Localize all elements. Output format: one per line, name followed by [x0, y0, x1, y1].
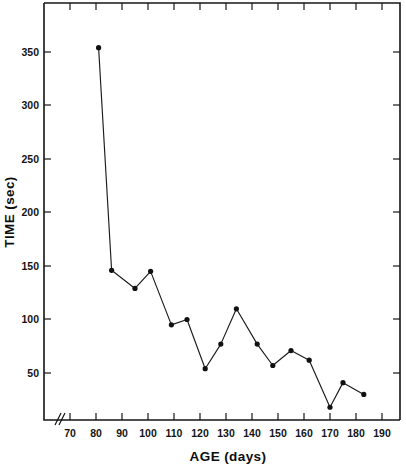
y-axis-title: TIME (sec): [2, 176, 17, 248]
y-tick-label: 300: [21, 99, 39, 111]
x-tick-label: 150: [269, 427, 287, 439]
x-tick-label: 80: [90, 427, 102, 439]
data-point: [340, 380, 345, 385]
data-point: [288, 348, 293, 353]
y-tick-label: 250: [21, 153, 39, 165]
data-point: [270, 363, 275, 368]
data-point: [234, 306, 239, 311]
x-tick-label: 120: [191, 427, 209, 439]
data-point: [255, 342, 260, 347]
data-point: [96, 45, 101, 50]
y-tick-label: 200: [21, 206, 39, 218]
data-point: [203, 366, 208, 371]
chart-background: [0, 0, 406, 469]
data-point: [148, 269, 153, 274]
data-point: [169, 322, 174, 327]
data-point: [184, 317, 189, 322]
x-tick-label: 170: [321, 427, 339, 439]
chart-figure: 350 300 250 200 150 100 50: [0, 0, 406, 469]
x-tick-label: 90: [116, 427, 128, 439]
x-tick-label: 180: [347, 427, 365, 439]
line-chart-svg: 350 300 250 200 150 100 50: [0, 0, 406, 469]
x-tick-label: 140: [243, 427, 261, 439]
y-tick-label: 100: [21, 313, 39, 325]
x-tick-label: 160: [295, 427, 313, 439]
y-tick-label: 50: [27, 367, 39, 379]
data-point: [307, 358, 312, 363]
x-axis-title: AGE (days): [190, 449, 267, 464]
x-tick-label: 190: [373, 427, 391, 439]
x-tick-label: 70: [64, 427, 76, 439]
data-point: [132, 286, 137, 291]
data-point: [361, 392, 366, 397]
x-tick-label: 100: [139, 427, 157, 439]
x-tick-label: 110: [166, 427, 183, 439]
x-tick-label: 130: [217, 427, 235, 439]
y-tick-label: 350: [21, 46, 39, 58]
data-point: [218, 342, 223, 347]
y-tick-label: 150: [21, 260, 39, 272]
data-point: [109, 268, 114, 273]
data-point: [327, 405, 332, 410]
